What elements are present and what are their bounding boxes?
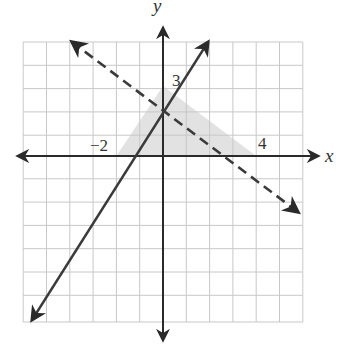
y-axis-label: y <box>153 0 161 15</box>
x-intercept-dashed-label: 4 <box>258 135 267 152</box>
x-axis-label: x <box>325 146 333 165</box>
solid-boundary-line <box>32 42 208 320</box>
x-intercept-solid-label: −2 <box>90 137 108 154</box>
y-intercept-label: 3 <box>172 72 181 89</box>
coordinate-plane <box>0 0 340 346</box>
